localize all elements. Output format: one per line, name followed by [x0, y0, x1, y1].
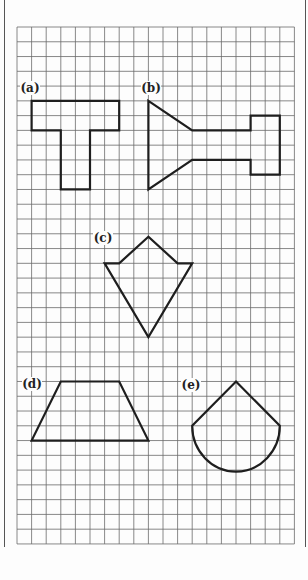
figure-c-label: (c) [94, 231, 113, 245]
figure-d-label: (d) [22, 377, 42, 391]
figure-b-label: (b) [141, 81, 161, 95]
figure-e-label: (e) [182, 378, 201, 392]
figure-a-label: (a) [20, 81, 39, 95]
grid-diagram: (a) (b) (c) (d) (e) [0, 0, 308, 580]
